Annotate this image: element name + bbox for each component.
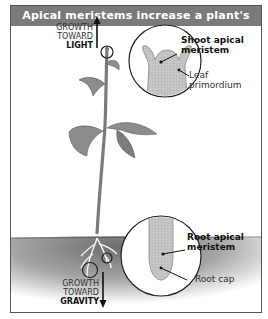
growth-toward-light-label: GROWTH TOWARD LIGHT xyxy=(49,23,93,50)
shoot-apical-meristem-label: Shoot apical meristem xyxy=(181,35,244,55)
label-line: TOWARD xyxy=(45,288,99,297)
leaf-primordium-label: Leaf primordium xyxy=(189,70,241,90)
arrow-up-icon xyxy=(94,16,101,24)
label-line: meristem xyxy=(181,45,244,55)
label-line: primordium xyxy=(189,80,241,90)
leaf-icon xyxy=(107,60,119,70)
label-line: Leaf xyxy=(189,70,241,80)
label-line: GROWTH xyxy=(49,23,93,32)
root-cap-label: Root cap xyxy=(195,274,234,284)
leaf-icon xyxy=(79,77,105,96)
label-line: TOWARD xyxy=(49,32,93,41)
leaf-icon xyxy=(117,130,135,158)
diagram-frame: Apical meristems increase a plant's heig… xyxy=(10,5,262,313)
stem-icon xyxy=(97,48,107,234)
label-line: meristem xyxy=(187,242,244,252)
leaf-icon xyxy=(107,123,157,135)
label-line-bold: LIGHT xyxy=(66,41,93,50)
label-line: Shoot apical xyxy=(181,35,244,45)
leaf-icon xyxy=(69,126,103,156)
label-line: Root apical xyxy=(187,232,244,242)
label-line-bold: GRAVITY xyxy=(60,297,99,306)
root-apical-meristem-label: Root apical meristem xyxy=(187,232,244,252)
growth-toward-gravity-label: GROWTH TOWARD GRAVITY xyxy=(45,279,99,306)
label-line: GROWTH xyxy=(45,279,99,288)
